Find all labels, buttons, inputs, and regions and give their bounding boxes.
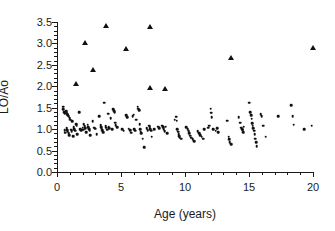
y-tick-label: 1.0 <box>37 124 52 135</box>
y-tick-label: 2.5 <box>37 59 52 70</box>
data-point-triangle <box>310 45 316 50</box>
data-point-circle <box>208 124 211 127</box>
data-point-circle <box>250 114 253 117</box>
x-tick-minor <box>159 172 160 175</box>
x-tick-minor <box>83 172 84 175</box>
data-point-circle <box>253 133 256 136</box>
x-tick-label: 20 <box>307 182 319 193</box>
data-point-circle <box>217 131 220 134</box>
y-tick-label: 2.0 <box>37 81 52 92</box>
x-tick-major <box>249 172 250 177</box>
data-point-circle <box>138 123 141 126</box>
data-point-circle <box>209 107 212 110</box>
data-point-circle <box>242 131 245 134</box>
data-point-triangle <box>147 85 153 90</box>
data-point-circle <box>78 111 81 114</box>
data-point-circle <box>193 140 196 143</box>
data-point-triangle <box>90 67 96 72</box>
data-point-circle <box>74 130 77 133</box>
data-point-triangle <box>123 45 129 50</box>
x-tick-minor <box>236 172 237 175</box>
y-tick-label: 1.5 <box>37 102 52 113</box>
data-point-circle <box>165 125 168 128</box>
x-tick-minor <box>211 172 212 175</box>
y-tick-labels: 0.00.51.01.52.02.53.03.5 <box>0 0 52 231</box>
x-tick-minor <box>134 172 135 175</box>
data-point-circle <box>166 132 169 135</box>
data-point-circle <box>264 136 267 139</box>
data-point-circle <box>230 143 233 146</box>
data-point-circle <box>94 127 97 130</box>
data-point-circle <box>95 133 98 136</box>
data-point-triangle <box>73 81 79 86</box>
data-point-triangle <box>103 23 109 28</box>
data-point-circle <box>261 115 264 118</box>
data-point-circle <box>226 119 229 122</box>
x-tick-major <box>313 172 314 177</box>
x-tick-major <box>121 172 122 177</box>
data-point-circle <box>141 137 144 140</box>
x-tick-label: 0 <box>54 182 60 193</box>
y-tick-label: 3.5 <box>37 17 52 28</box>
data-point-circle <box>277 115 280 118</box>
data-point-triangle <box>147 24 153 29</box>
data-point-circle <box>237 116 240 119</box>
data-point-circle <box>134 130 137 133</box>
data-point-circle <box>255 141 258 144</box>
data-point-circle <box>202 137 205 140</box>
x-tick-minor <box>147 172 148 175</box>
data-point-circle <box>135 118 138 121</box>
y-tick-label: 3.0 <box>37 38 52 49</box>
data-point-circle <box>71 120 74 123</box>
data-point-circle <box>76 133 79 136</box>
data-point-circle <box>290 104 293 107</box>
data-point-circle <box>109 117 112 120</box>
data-point-circle <box>249 111 252 114</box>
x-tick-minor <box>198 172 199 175</box>
data-point-circle <box>111 128 114 131</box>
x-axis-title: Age (years) <box>154 207 216 221</box>
data-point-circle <box>210 112 213 115</box>
y-tick-label: 0.0 <box>37 167 52 178</box>
data-point-circle <box>248 101 251 104</box>
x-tick-major <box>57 172 58 177</box>
data-point-circle <box>143 146 146 149</box>
data-point-circle <box>243 125 246 128</box>
data-point-circle <box>116 126 119 129</box>
y-tick-label: 0.5 <box>37 145 52 156</box>
x-tick-minor <box>262 172 263 175</box>
data-point-circle <box>158 127 161 130</box>
data-point-circle <box>130 131 133 134</box>
x-tick-minor <box>223 172 224 175</box>
data-point-circle <box>303 128 306 131</box>
x-tick-minor <box>95 172 96 175</box>
data-point-triangle <box>228 54 234 59</box>
data-point-circle <box>211 116 214 119</box>
data-point-circle <box>250 118 253 121</box>
data-point-circle <box>72 135 75 138</box>
data-point-circle <box>84 127 87 130</box>
x-tick-label: 5 <box>118 182 124 193</box>
x-tick-minor <box>287 172 288 175</box>
data-point-circle <box>175 119 178 122</box>
data-point-circle <box>98 115 101 118</box>
x-tick-minor <box>275 172 276 175</box>
data-point-circle <box>203 128 206 131</box>
data-point-circle <box>310 124 313 127</box>
data-point-circle <box>216 127 219 130</box>
data-point-circle <box>126 116 129 119</box>
data-point-circle <box>255 145 258 148</box>
data-point-circle <box>113 112 116 115</box>
data-point-circle <box>138 109 141 112</box>
plot-area <box>57 22 313 172</box>
data-point-circle <box>180 137 183 140</box>
data-point-circle <box>133 113 136 116</box>
data-point-circle <box>92 120 95 123</box>
x-tick-label: 10 <box>179 182 191 193</box>
data-point-circle <box>262 124 265 127</box>
data-point-circle <box>103 101 106 104</box>
data-point-circle <box>88 130 91 133</box>
x-tick-label: 15 <box>243 182 255 193</box>
data-point-circle <box>254 137 257 140</box>
data-point-circle <box>68 134 71 137</box>
